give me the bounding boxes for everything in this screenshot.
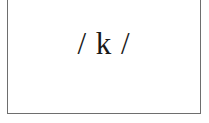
phoneme-card: / k / <box>7 0 201 114</box>
phoneme-text: / k / <box>8 26 200 62</box>
